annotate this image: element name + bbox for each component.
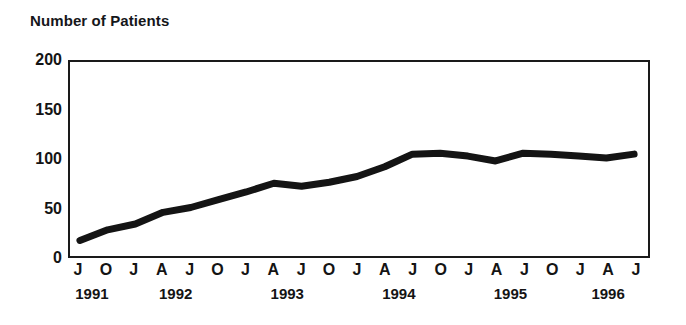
x-tick-label: O [434, 262, 446, 278]
chart-figure: Number of Patients 050100150200 JO1991JA… [0, 0, 686, 325]
x-tick-label: J [464, 262, 473, 278]
x-tick-label: J [520, 262, 529, 278]
y-tick-label: 50 [44, 201, 62, 217]
x-tick-label: O [546, 262, 558, 278]
plot-area [68, 60, 650, 258]
y-tick-label: 150 [35, 102, 62, 118]
x-tick-label: O [323, 262, 335, 278]
x-axis-year-label: 1994 [382, 286, 415, 301]
x-tick-label: A [156, 262, 168, 278]
x-tick-label: A [491, 262, 503, 278]
x-tick-label: A [379, 262, 391, 278]
x-tick-label: O [100, 262, 112, 278]
x-axis-year-label: 1992 [159, 286, 192, 301]
y-tick-label: 100 [35, 151, 62, 167]
x-tick-label: O [211, 262, 223, 278]
y-axis: 050100150200 [0, 0, 62, 325]
x-tick-label: J [74, 262, 83, 278]
x-tick-label: J [297, 262, 306, 278]
x-tick-label: A [268, 262, 280, 278]
x-tick-label: A [602, 262, 614, 278]
data-series-line [70, 62, 648, 256]
x-tick-label: J [408, 262, 417, 278]
x-axis-year-label: 1995 [494, 286, 527, 301]
x-axis-year-label: 1996 [591, 286, 624, 301]
y-tick-label: 0 [53, 250, 62, 266]
x-tick-label: J [632, 262, 641, 278]
y-tick-label: 200 [35, 52, 62, 68]
x-tick-label: J [353, 262, 362, 278]
x-axis-year-label: 1991 [75, 286, 108, 301]
x-tick-label: J [241, 262, 250, 278]
x-tick-label: J [129, 262, 138, 278]
x-tick-label: J [576, 262, 585, 278]
x-tick-label: J [185, 262, 194, 278]
x-axis: JO1991JAJO1992JAJO1993JAJO1994JAJO1995JA… [68, 260, 650, 322]
x-axis-year-label: 1993 [271, 286, 304, 301]
